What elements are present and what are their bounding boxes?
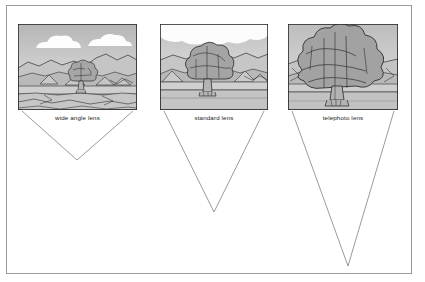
lens-label-telephoto: telephoto lens xyxy=(288,115,398,121)
lens-label-standard: standard lens xyxy=(160,115,268,121)
lens-label-wide-angle: wide angle lens xyxy=(18,115,137,121)
panel-image-wide-angle xyxy=(18,24,137,110)
panel-image-standard xyxy=(160,24,268,110)
lens-field-of-view-figure: wide angle lens xyxy=(0,0,425,282)
panel-image-telephoto xyxy=(288,24,398,110)
